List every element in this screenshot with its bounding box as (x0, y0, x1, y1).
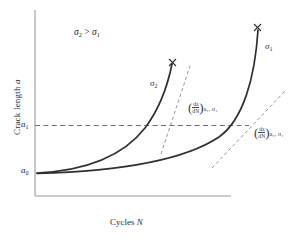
y-tick-a1-sub: 1 (26, 124, 29, 130)
tangent-annotation-sigma2: (dadN)a₁, σ₂ (188, 101, 217, 114)
figure-crack-growth: Crack length a Cycles N a1 a0 σ2 > σ1 σ2… (0, 0, 308, 243)
derivative-numerator-sigma2: da (193, 101, 198, 107)
y-tick-a1: a1 (21, 120, 29, 130)
curve-label-sigma1: σ1 (265, 42, 273, 52)
tangent-suffix-sigma1: a₁, σ₁ (270, 130, 284, 137)
curve-label-sigma2-sub: 2 (154, 83, 157, 89)
derivative-denominator-sigma2: dN (192, 107, 199, 114)
annotation-stress-comparison: σ2 > σ1 (74, 28, 100, 38)
y-axis-title-var: a (12, 79, 22, 84)
tangent-annotation-sigma1: (dadN)a₁, σ₁ (254, 126, 283, 139)
derivative-fraction-sigma1: dadN (258, 126, 265, 139)
plot-svg (0, 0, 308, 243)
comparison-sigma1-sub: 1 (97, 31, 100, 38)
x-axis-title-var: N (137, 217, 143, 227)
tangent-suffix-sigma2: a₁, σ₂ (204, 105, 218, 112)
y-tick-a0-sub: 0 (26, 170, 29, 176)
derivative-numerator-sigma1: da (259, 126, 264, 132)
x-axis-title-text: Cycles (110, 217, 135, 227)
derivative-fraction-sigma2: dadN (192, 101, 199, 114)
y-tick-a0: a0 (21, 166, 29, 176)
curve-label-sigma2: σ2 (150, 79, 158, 89)
x-axis-title: Cycles N (110, 218, 143, 227)
comparison-operator: > (82, 27, 92, 37)
tangent-line-sigma2 (161, 66, 190, 154)
derivative-denominator-sigma1: dN (258, 132, 265, 139)
curve-sigma1 (37, 30, 258, 174)
curve-label-sigma1-sub: 1 (269, 46, 272, 52)
